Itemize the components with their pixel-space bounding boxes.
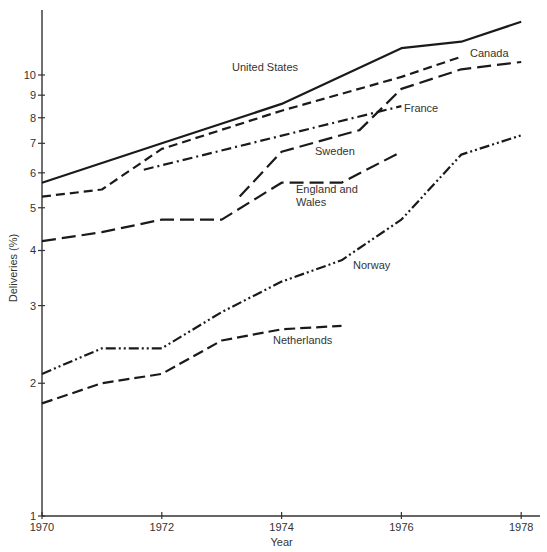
series-label-england-and-wales: England andWales xyxy=(296,183,358,208)
x-tick-label: 1972 xyxy=(150,521,174,533)
x-tick-label: 1978 xyxy=(509,521,533,533)
series-line-canada xyxy=(42,57,461,197)
series-label-netherlands: Netherlands xyxy=(273,334,333,346)
x-tick-label: 1976 xyxy=(389,521,413,533)
y-tick-label: 10 xyxy=(24,69,36,81)
x-tick-label: 1974 xyxy=(269,521,293,533)
series-line-sweden xyxy=(240,62,522,197)
series-labels: United StatesCanadaFranceSwedenEngland a… xyxy=(232,47,509,346)
series-label-canada: Canada xyxy=(470,47,509,59)
series-label-norway: Norway xyxy=(353,259,391,271)
y-tick-label: 2 xyxy=(30,377,36,389)
x-tick-label: 1970 xyxy=(30,521,54,533)
series-line-united-states xyxy=(42,22,521,183)
y-tick-label: 4 xyxy=(30,244,36,256)
y-axis-label: Deliveries (%) xyxy=(7,234,19,302)
y-tick-label: 9 xyxy=(30,89,36,101)
series-label-france: France xyxy=(404,102,438,114)
axes: 12345678910 19701972197419761978 Year De… xyxy=(7,10,540,548)
y-tick-label: 3 xyxy=(30,300,36,312)
y-tick-label: 8 xyxy=(30,112,36,124)
series-label-united-states: United States xyxy=(232,61,299,73)
line-chart: 12345678910 19701972197419761978 Year De… xyxy=(0,0,547,552)
x-ticks: 19701972197419761978 xyxy=(30,512,534,533)
x-axis-label: Year xyxy=(270,536,293,548)
y-tick-label: 6 xyxy=(30,167,36,179)
series-lines xyxy=(42,22,521,404)
series-label-sweden: Sweden xyxy=(315,145,355,157)
y-tick-label: 7 xyxy=(30,137,36,149)
y-tick-label: 5 xyxy=(30,202,36,214)
